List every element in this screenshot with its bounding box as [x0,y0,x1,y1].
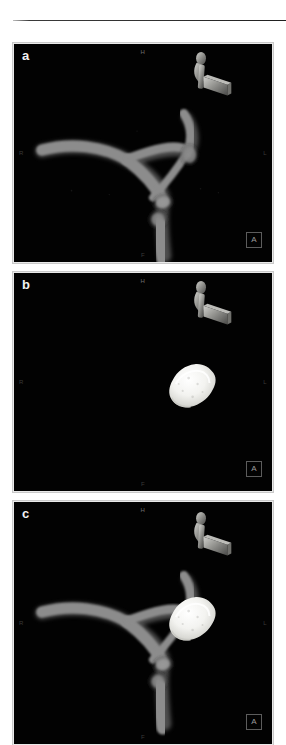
panel-c-letter: c [22,507,29,520]
orientation-marker-left-a: L [263,150,267,156]
orientation-marker-superior-b: H [141,278,146,284]
panel-b[interactable]: b H F R L A [13,272,273,492]
figure-root: a H F R L A [0,0,286,745]
orientation-marker-inferior-b: F [141,481,145,487]
orientation-marker-left-b: L [263,379,267,385]
orientation-marker-superior-a: H [141,49,146,55]
panel-b-letter: b [22,278,30,291]
orientation-marker-superior-c: H [141,507,146,513]
panel-a-letter: a [22,49,29,62]
orientation-marker-inferior-c: F [141,734,145,740]
surgical-clip-rendering-a [14,44,272,262]
view-indicator-c: A [246,714,262,730]
panel-a-canvas: a H F R L A [14,44,272,262]
top-divider-rule [13,20,286,21]
orientation-marker-right-c: R [19,620,24,626]
panel-c-canvas: c H F R L A [14,502,272,744]
surgical-clip-rendering-b [14,273,272,491]
surgical-clip-rendering-c [14,502,272,744]
view-indicator-a: A [246,232,262,248]
orientation-marker-right-a: R [19,150,24,156]
panel-b-canvas: b H F R L A [14,273,272,491]
view-indicator-b: A [246,461,262,477]
panel-b-clip-layer [14,273,272,491]
orientation-marker-right-b: R [19,379,24,385]
panel-a-clip-layer [14,44,272,262]
orientation-marker-inferior-a: F [141,252,145,258]
panel-a[interactable]: a H F R L A [13,43,273,263]
panel-c-clip-layer [14,502,272,744]
orientation-marker-left-c: L [263,620,267,626]
panel-c[interactable]: c H F R L A [13,501,273,745]
